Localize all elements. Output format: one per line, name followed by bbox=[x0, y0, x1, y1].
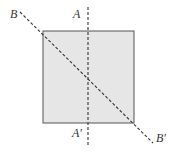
label-b: B bbox=[10, 8, 17, 20]
label-a-prime: A′ bbox=[72, 127, 82, 139]
label-a: A bbox=[73, 8, 80, 20]
symmetry-diagram bbox=[0, 0, 176, 154]
label-b-prime: B′ bbox=[156, 132, 166, 144]
